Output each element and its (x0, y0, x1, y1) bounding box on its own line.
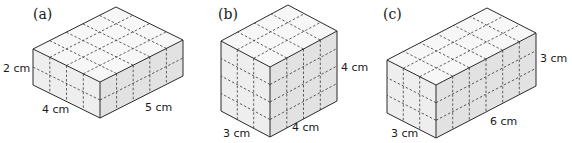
caption-c: (c) (383, 6, 402, 22)
length-label-c: 6 cm (490, 115, 517, 128)
length-label-b: 4 cm (292, 121, 319, 134)
length-label-a: 5 cm (145, 101, 172, 114)
height-label-a: 2 cm (3, 62, 30, 75)
cuboid-b (221, 5, 337, 137)
depth-label-a: 4 cm (42, 103, 69, 116)
height-label-b: 4 cm (341, 61, 368, 74)
depth-label-b: 3 cm (223, 127, 250, 140)
caption-b: (b) (218, 6, 238, 22)
cuboid-diagrams: (a) (b) (c) 2 cm 4 cm 5 cm 4 cm 3 cm 4 c… (0, 0, 572, 143)
caption-a: (a) (33, 6, 52, 22)
depth-label-c: 3 cm (391, 127, 418, 140)
height-label-c: 3 cm (540, 52, 567, 65)
